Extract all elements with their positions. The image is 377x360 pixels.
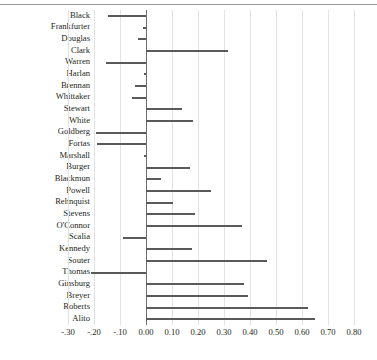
x-tick-label: 0.60	[294, 327, 309, 337]
x-tick-label: 0.00	[138, 327, 153, 337]
gridline-0.20	[198, 10, 199, 325]
x-tick-label: -.10	[113, 327, 127, 337]
gridline-0.70	[328, 10, 329, 325]
bar	[106, 62, 146, 64]
top-rule	[0, 4, 377, 5]
bar	[146, 225, 242, 227]
bar	[146, 190, 211, 192]
gridline--.30	[68, 10, 69, 325]
gridline-0.50	[276, 10, 277, 325]
category-label: Alito	[2, 314, 90, 323]
gridline-0.30	[224, 10, 225, 325]
category-label: Powell	[2, 186, 90, 195]
bar	[146, 307, 308, 309]
category-axis-labels: BlackFrankfurterDouglasClarkWarrenHarlan…	[0, 10, 90, 325]
x-tick-label: 0.20	[190, 327, 205, 337]
category-label: Frankfurter	[2, 22, 90, 31]
gridline-0.40	[250, 10, 251, 325]
bar	[146, 178, 161, 180]
x-tick-label: 0.10	[164, 327, 179, 337]
x-tick-label: 0.30	[216, 327, 231, 337]
bar	[97, 143, 146, 145]
x-tick-label: -.30	[61, 327, 75, 337]
bar	[138, 38, 146, 40]
bar	[132, 97, 146, 99]
x-tick-label: 0.40	[242, 327, 257, 337]
bar	[108, 15, 146, 17]
bar	[146, 318, 315, 320]
category-label: O'Connor	[2, 221, 90, 230]
gridline--.20	[94, 10, 95, 325]
x-axis-tick-labels: -.30-.20-.100.000.100.200.300.400.500.60…	[0, 327, 377, 347]
bar	[96, 132, 146, 134]
bar	[91, 272, 146, 274]
category-label: Rehnquist	[2, 197, 90, 206]
category-label: Douglas	[2, 34, 90, 43]
bar	[146, 213, 195, 215]
category-label: Goldberg	[2, 127, 90, 136]
category-label: Harlan	[2, 69, 90, 78]
bar	[146, 167, 190, 169]
category-label: Blackmun	[2, 174, 90, 183]
category-label: Stevens	[2, 209, 90, 218]
category-label: Black	[2, 11, 90, 20]
bar	[146, 120, 193, 122]
category-label: Whittaker	[2, 92, 90, 101]
bar	[143, 27, 146, 29]
gridline--.10	[120, 10, 121, 325]
category-label: Souter	[2, 256, 90, 265]
category-label: Breyer	[2, 291, 90, 300]
bar	[146, 50, 228, 52]
bar	[144, 155, 146, 157]
category-label: Ginsburg	[2, 279, 90, 288]
bar	[146, 108, 182, 110]
category-label: Stewart	[2, 104, 90, 113]
category-label: Brennan	[2, 81, 90, 90]
bar	[146, 202, 173, 204]
bar	[123, 237, 146, 239]
x-tick-label: 0.70	[320, 327, 335, 337]
x-tick-label: 0.80	[346, 327, 361, 337]
category-label: Clark	[2, 46, 90, 55]
x-tick-label: 0.50	[268, 327, 283, 337]
bar	[146, 248, 192, 250]
gridline-0.60	[302, 10, 303, 325]
category-label: Fortas	[2, 139, 90, 148]
bar	[146, 295, 248, 297]
category-label: Marshall	[2, 151, 90, 160]
category-label: Warren	[2, 57, 90, 66]
bar-chart: BlackFrankfurterDouglasClarkWarrenHarlan…	[0, 0, 377, 360]
category-label: Thomas	[2, 267, 90, 276]
x-tick-label: -.20	[87, 327, 101, 337]
bar	[146, 260, 267, 262]
category-label: Scalia	[2, 232, 90, 241]
bars-panel	[90, 10, 377, 325]
bar	[135, 85, 146, 87]
category-label: Kennedy	[2, 244, 90, 253]
category-label: Burger	[2, 162, 90, 171]
category-label: Roberts	[2, 302, 90, 311]
bar	[146, 283, 244, 285]
plot-area: BlackFrankfurterDouglasClarkWarrenHarlan…	[0, 10, 377, 325]
gridline-0.80	[354, 10, 355, 325]
category-label: White	[2, 116, 90, 125]
bar	[144, 73, 146, 75]
